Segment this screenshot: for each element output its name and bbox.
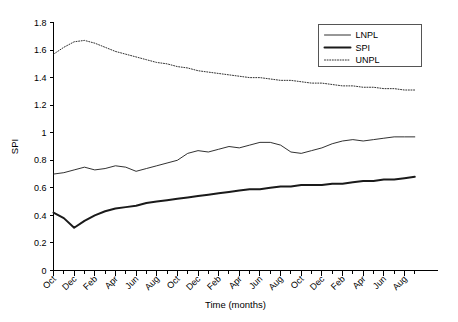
x-tick-label: Apr [227,274,244,291]
series-line-spi [54,177,415,228]
x-tick-label: Oct [289,274,306,291]
x-tick-label: Oct [41,274,58,291]
x-tick-label: Dec [60,273,79,292]
y-tick-label: 0.2 [34,238,47,248]
x-tick-label: Feb [81,274,99,292]
x-tick-label: Aug [143,274,161,292]
chart-figure: 00.20.40.60.811.21.41.61.8SPIOctDecFebAp… [0,0,458,322]
x-tick-label: Apr [103,274,120,291]
series-line-lnpl [54,137,415,174]
legend-label-spi: SPI [356,43,371,53]
x-tick-label: Aug [390,274,408,292]
y-tick-label: 1.6 [34,45,47,55]
x-tick-label: Aug [267,274,285,292]
y-tick-label: 1.8 [34,18,47,28]
y-tick-label: 0 [41,266,46,276]
y-axis-title: SPI [9,139,20,154]
x-tick-label: Feb [329,274,347,292]
y-tick-label: 1 [41,128,46,138]
x-tick-label: Apr [351,274,368,291]
y-tick-label: 1.2 [34,100,47,110]
x-tick-label: Oct [165,274,182,291]
legend-label-unpl: UNPL [356,55,380,65]
y-tick-label: 1.4 [34,73,47,83]
y-tick-label: 0.6 [34,183,47,193]
y-tick-label: 0.4 [34,211,47,221]
x-tick-label: Jun [247,274,264,291]
x-tick-label: Jun [123,274,140,291]
x-tick-label: Dec [184,273,203,292]
x-tick-label: Feb [205,274,223,292]
y-tick-label: 0.8 [34,155,47,165]
x-axis-title: Time (months) [205,299,266,310]
spi-control-chart: 00.20.40.60.811.21.41.61.8SPIOctDecFebAp… [0,0,458,322]
legend-label-lnpl: LNPL [356,30,379,40]
x-tick-label: Dec [308,273,327,292]
x-tick-label: Jun [371,274,388,291]
